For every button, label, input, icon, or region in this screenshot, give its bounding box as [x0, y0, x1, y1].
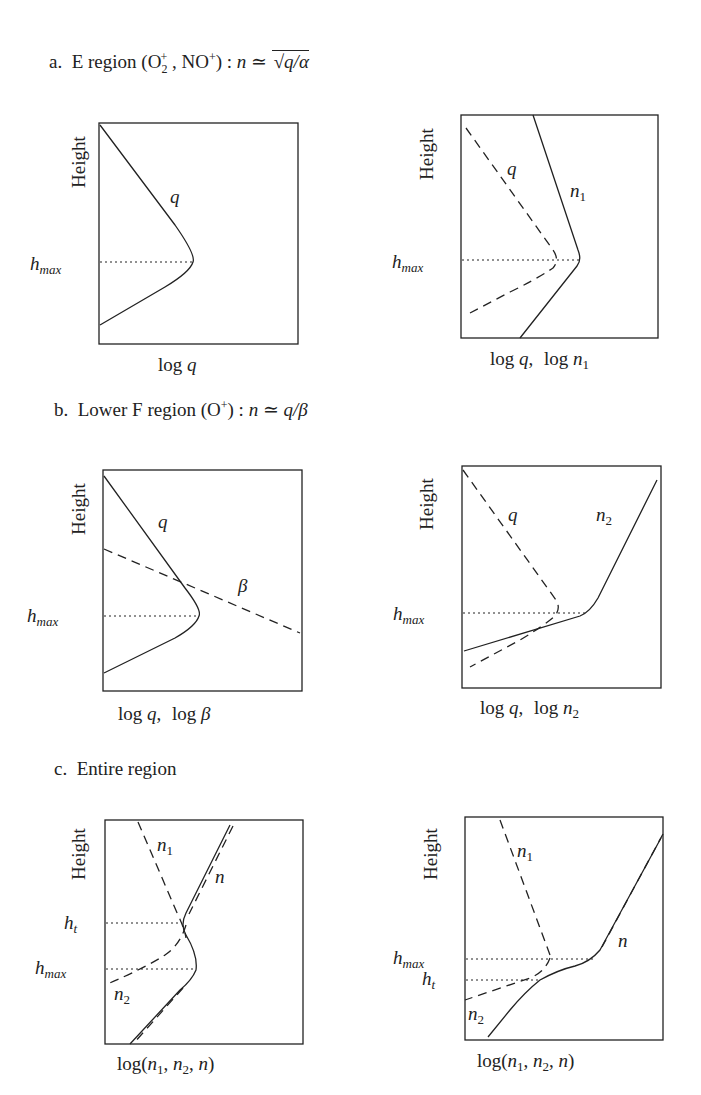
y-axis-label: Height [416, 478, 437, 530]
hmax-label: hmax [392, 251, 423, 275]
n1-label: n1 [157, 834, 173, 858]
panel-c-right [465, 817, 663, 1040]
hmax-label: hmax [393, 947, 424, 971]
n-curve [488, 838, 661, 1037]
beta-dashed-line [104, 549, 300, 633]
q-label: q [158, 511, 168, 532]
hmax-label: hmax [35, 957, 66, 981]
x-axis-label: log(n1, n2, n) [117, 1053, 214, 1077]
n-label: n [215, 866, 225, 887]
panel-a-right [461, 115, 658, 338]
plot-frame [461, 115, 658, 338]
n-label: n [618, 930, 628, 951]
n-curve [130, 825, 230, 1044]
q-curve [104, 476, 199, 673]
plot-frame [465, 817, 663, 1040]
q-curve [100, 125, 193, 325]
hmax-label: hmax [27, 605, 58, 629]
n1-label: n1 [517, 840, 533, 864]
ht-label: ht [64, 912, 78, 936]
diagram-canvas: Height hmax q log q Height hmax q n1 log… [0, 0, 701, 1095]
n2-label: n2 [596, 504, 612, 528]
x-axis-label: log q [158, 354, 197, 375]
n2-label: n2 [468, 1003, 484, 1027]
q-label: q [508, 504, 518, 525]
n2-label: n2 [114, 983, 130, 1007]
n-dashed-overlay [602, 834, 663, 947]
q-label: q [507, 158, 517, 179]
x-axis-label: log q, log n2 [480, 697, 579, 721]
y-axis-label: Height [68, 136, 89, 188]
n2-dashed-curve [105, 925, 186, 985]
panel-b-left [103, 470, 302, 691]
n2n-dashed-overlay [133, 988, 183, 1044]
y-axis-label: Height [68, 828, 89, 880]
n1n-dashed-overlay [189, 826, 233, 914]
panel-c-left [105, 820, 303, 1044]
plot-frame [105, 820, 303, 1044]
y-axis-label: Height [420, 828, 441, 880]
n1-label: n1 [570, 180, 586, 204]
n2-dashed-curve [465, 958, 550, 1000]
q-dashed-curve [466, 128, 557, 313]
n1-curve [520, 115, 580, 338]
hmax-label: hmax [393, 603, 424, 627]
panel-a-left [99, 123, 298, 344]
ht-label: ht [422, 968, 436, 992]
panel-b-right [462, 466, 661, 688]
plot-frame [99, 123, 298, 344]
plot-frame [103, 470, 302, 691]
y-axis-label: Height [416, 128, 437, 180]
beta-label: β [237, 575, 248, 596]
n2-curve [464, 480, 657, 651]
x-axis-label: log q, log β [118, 703, 211, 724]
x-axis-label: log q, log n1 [490, 348, 589, 372]
hmax-label: hmax [30, 253, 61, 277]
y-axis-label: Height [68, 483, 89, 535]
x-axis-label: log(n1, n2, n) [477, 1050, 574, 1074]
plot-frame [462, 466, 661, 688]
q-label: q [170, 186, 180, 207]
